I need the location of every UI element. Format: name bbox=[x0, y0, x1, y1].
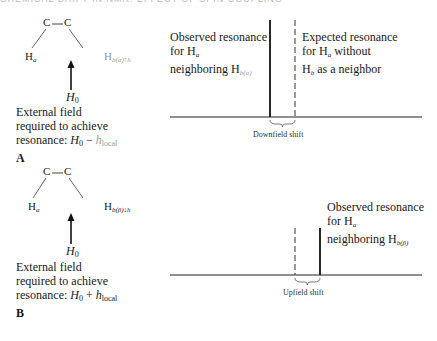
a-observed-label: Observed resonance for Ha neighboring Hb… bbox=[170, 30, 267, 80]
panel-label-b: B bbox=[16, 306, 117, 320]
b-caption: External field required to achieve reson… bbox=[16, 260, 117, 320]
b-h-left: Ha bbox=[28, 200, 39, 217]
a-shift-label: Downfield shift bbox=[253, 130, 303, 140]
b-carbon-2: C bbox=[64, 165, 71, 178]
a-h-right: Hb(α)↑h bbox=[104, 50, 131, 67]
b-shift-label: Upfield shift bbox=[283, 288, 324, 298]
panel-label-a: A bbox=[16, 151, 117, 165]
a-carbon-1: C bbox=[43, 16, 50, 29]
b-carbon-1: C bbox=[43, 165, 50, 178]
a-h-left: Ha bbox=[25, 50, 36, 67]
a-caption: External field required to achieve reson… bbox=[16, 105, 117, 165]
a-carbon-2: C bbox=[64, 16, 71, 29]
b-observed-label: Observed resonance for Ha neighboring Hb… bbox=[327, 200, 424, 250]
b-h-right: Hb(β)↓h bbox=[104, 200, 131, 217]
a-expected-label: Expected resonance for Ha without Hb as … bbox=[302, 30, 398, 80]
